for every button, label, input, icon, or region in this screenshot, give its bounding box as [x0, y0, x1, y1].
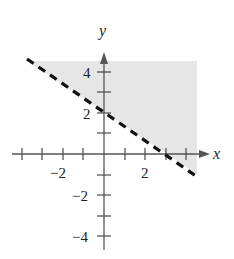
y-axis-arrow-icon — [100, 52, 108, 64]
x-axis-arrow-icon — [199, 150, 210, 158]
inequality-graph: y x −2 2 4 2 −2 −4 — [0, 0, 234, 259]
y-tick-label-4: 4 — [83, 65, 91, 81]
x-axis-label: x — [212, 145, 220, 162]
x-tick-label-neg2: −2 — [50, 165, 66, 181]
y-tick-label-neg2: −2 — [72, 188, 88, 204]
y-axis-label: y — [97, 22, 107, 40]
y-tick-label-2: 2 — [83, 106, 91, 122]
y-tick-label-neg4: −4 — [72, 229, 88, 245]
x-tick-label-2: 2 — [141, 165, 149, 181]
